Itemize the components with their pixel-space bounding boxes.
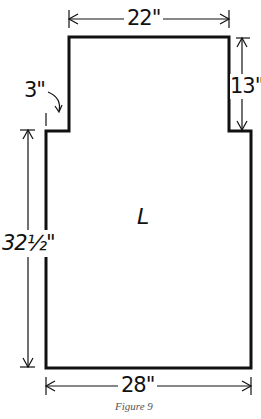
step-offset-label: 3" (24, 80, 45, 101)
piece-label: L (137, 206, 149, 228)
step-offset-indicator (46, 92, 62, 126)
bottom-width-label: 28" (118, 375, 157, 396)
top-width-label: 22" (124, 8, 163, 29)
pattern-outline (46, 37, 251, 368)
pattern-diagram (0, 0, 261, 419)
upper-height-label: 13" (230, 74, 261, 99)
lower-height-label: 32½" (2, 230, 55, 257)
figure-caption: Figure 9 (115, 401, 153, 412)
